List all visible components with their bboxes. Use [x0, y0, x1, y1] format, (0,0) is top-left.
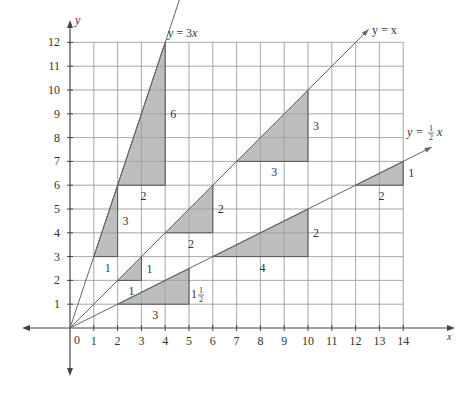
label-one-and-half: 1 1 2	[191, 286, 204, 304]
x-axis-left-arrow-icon	[22, 325, 30, 331]
x-tick-label: 5	[186, 334, 192, 348]
y-tick-label: 9	[54, 107, 60, 121]
axes	[22, 20, 455, 376]
origin-label: 0	[74, 333, 80, 347]
y-tick-label: 7	[54, 154, 60, 168]
rise-label: 2	[313, 226, 319, 240]
svg-text:x: x	[436, 125, 443, 139]
svg-text:y =: y =	[406, 125, 423, 139]
y-axis-down-arrow-icon	[67, 368, 73, 376]
y-tick-label: 2	[54, 273, 60, 287]
ray-y-3x	[70, 0, 371, 328]
tick-labels: 1234567891011121314123456789101112	[48, 35, 409, 348]
svg-text:2: 2	[199, 295, 203, 304]
label-y-eq-half-x: y = 1 2 x	[406, 124, 443, 142]
grid-overlay	[70, 42, 403, 328]
run-label: 4	[259, 261, 265, 275]
x-tick-label: 1	[91, 334, 97, 348]
run-label: 2	[378, 189, 384, 203]
x-tick-label: 6	[210, 334, 216, 348]
y-axis-label: y	[74, 13, 81, 27]
rise-label: 2	[218, 202, 224, 216]
x-tick-label: 9	[281, 334, 287, 348]
x-axis-label: x	[446, 331, 452, 342]
y-tick-label: 10	[48, 83, 60, 97]
label-y-eq-3x: y = 3x	[167, 26, 198, 40]
run-label: 2	[188, 237, 194, 251]
svg-text:1: 1	[191, 287, 197, 301]
x-tick-label: 2	[115, 334, 121, 348]
run-label: 2	[140, 189, 146, 203]
svg-text:2: 2	[429, 133, 433, 142]
x-tick-label: 14	[397, 334, 409, 348]
y-tick-label: 11	[48, 59, 60, 73]
rise-label: 1	[408, 166, 414, 180]
y-tick-label: 3	[54, 250, 60, 264]
x-tick-label: 3	[138, 334, 144, 348]
rise-label: 1	[146, 262, 152, 276]
run-label: 3	[271, 165, 277, 179]
x-tick-label: 11	[326, 334, 338, 348]
label-y-eq-x: y = x	[372, 23, 397, 37]
y-axis-up-arrow-icon	[67, 20, 73, 28]
y-tick-label: 1	[54, 297, 60, 311]
y-tick-label: 6	[54, 178, 60, 192]
run-label: 1	[129, 284, 135, 298]
svg-text:1: 1	[199, 286, 203, 295]
rise-label: 3	[313, 119, 319, 133]
x-tick-label: 10	[302, 334, 314, 348]
rise-label: 6	[170, 107, 176, 121]
y-tick-label: 12	[48, 35, 60, 49]
rise-label: 3	[123, 214, 129, 228]
slope-triangles	[94, 42, 403, 304]
svg-text:1: 1	[429, 124, 433, 133]
run-label: 1	[105, 261, 111, 275]
coordinate-plane: 1234567891011121314123456789101112 13261…	[0, 0, 475, 394]
x-tick-label: 13	[373, 334, 385, 348]
slope-diagram: 1234567891011121314123456789101112 13261…	[0, 0, 475, 394]
y-tick-label: 5	[54, 202, 60, 216]
x-tick-label: 12	[350, 334, 362, 348]
y-tick-label: 8	[54, 131, 60, 145]
x-tick-label: 8	[257, 334, 263, 348]
x-tick-label: 4	[162, 334, 168, 348]
x-tick-label: 7	[234, 334, 240, 348]
run-label: 3	[152, 308, 158, 322]
ray-arrow-icon	[424, 147, 431, 152]
ray-y-x	[70, 29, 369, 328]
y-tick-label: 4	[54, 226, 60, 240]
